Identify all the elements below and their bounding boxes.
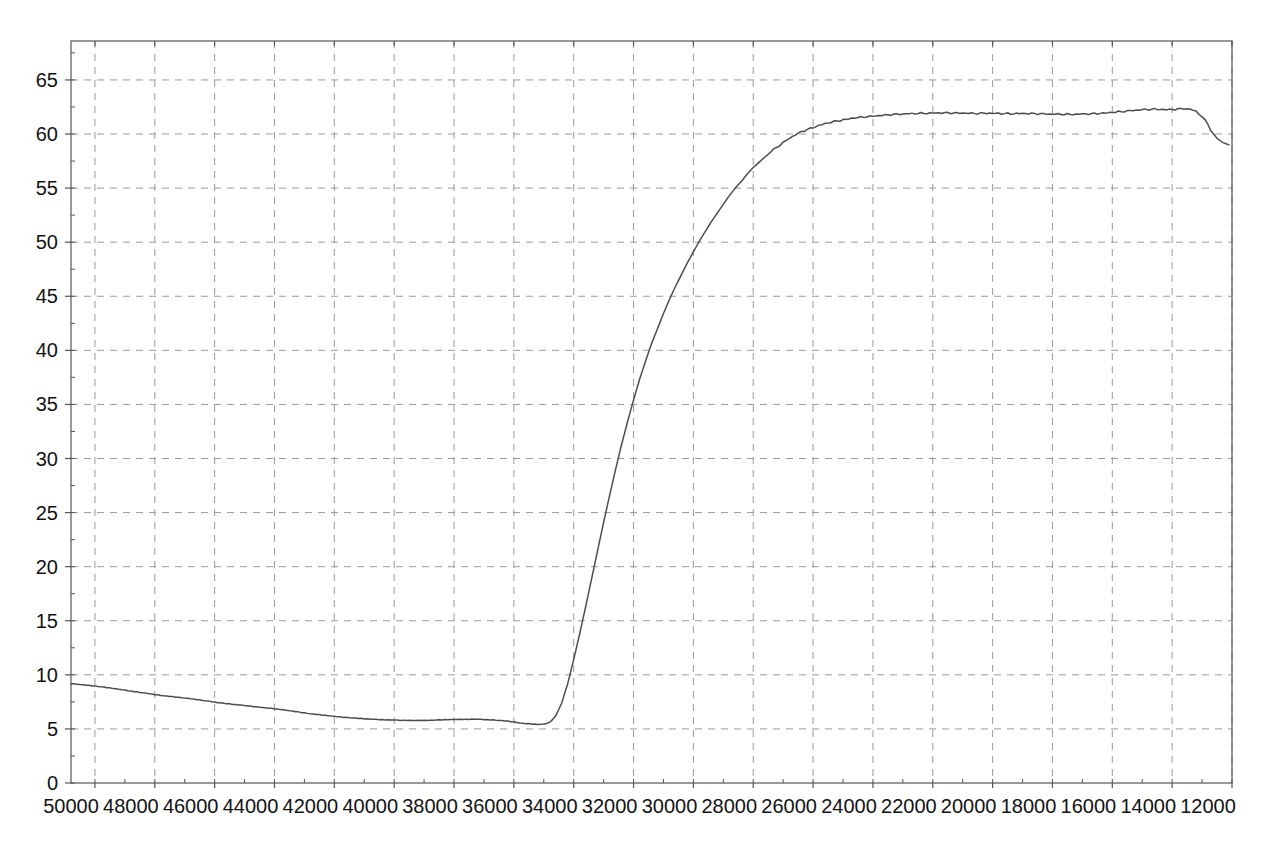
x-tick-label: 14000 (1120, 795, 1176, 817)
y-tick-label: 50 (36, 231, 58, 253)
x-tick-label: 34000 (522, 795, 578, 817)
x-tick-label: 48000 (103, 795, 159, 817)
y-tick-label: 45 (36, 285, 58, 307)
line-chart: 05101520253035404550556065 5000048000460… (0, 0, 1270, 855)
plot-background (71, 41, 1232, 783)
y-tick-label: 10 (36, 664, 58, 686)
x-tick-label: 28000 (701, 795, 757, 817)
x-tick-label: 26000 (761, 795, 817, 817)
y-tick-label: 25 (36, 502, 58, 524)
x-tick-label: 16000 (1061, 795, 1117, 817)
x-tick-label: 42000 (283, 795, 339, 817)
x-axis-tick-labels: 5000048000460004400042000400003800036000… (43, 795, 1236, 817)
y-tick-label: 40 (36, 339, 58, 361)
x-tick-label: 32000 (582, 795, 638, 817)
x-tick-label: 24000 (821, 795, 877, 817)
y-tick-label: 60 (36, 123, 58, 145)
y-tick-label: 30 (36, 448, 58, 470)
x-tick-label: 20000 (941, 795, 997, 817)
x-tick-label: 40000 (342, 795, 398, 817)
y-tick-label: 0 (47, 772, 58, 794)
x-tick-label: 46000 (163, 795, 219, 817)
y-tick-label: 35 (36, 393, 58, 415)
y-tick-label: 55 (36, 177, 58, 199)
x-tick-label: 44000 (223, 795, 279, 817)
x-tick-label: 18000 (1001, 795, 1057, 817)
x-tick-label: 38000 (402, 795, 458, 817)
y-axis-tick-labels: 05101520253035404550556065 (36, 69, 58, 794)
y-tick-label: 15 (36, 610, 58, 632)
y-tick-label: 20 (36, 556, 58, 578)
x-tick-label: 22000 (881, 795, 937, 817)
x-tick-label: 12000 (1180, 795, 1236, 817)
x-tick-label: 30000 (642, 795, 698, 817)
y-tick-label: 65 (36, 69, 58, 91)
x-tick-label: 50000 (43, 795, 99, 817)
x-tick-label: 36000 (462, 795, 518, 817)
chart-container: 05101520253035404550556065 5000048000460… (0, 0, 1270, 855)
y-tick-label: 5 (47, 718, 58, 740)
